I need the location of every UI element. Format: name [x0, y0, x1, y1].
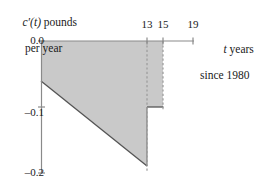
y-axis-label-line1: c′(t) pounds: [23, 16, 78, 28]
y-tick-label-0: 0.0: [18, 34, 44, 46]
x-axis-label-line1: t years: [224, 43, 254, 55]
shaded-region-13-to-15: [147, 41, 163, 107]
y-tick-label-neg0.2: –0.2: [8, 166, 44, 178]
chart-figure: c′(t) pounds per year t years since 1980…: [0, 0, 270, 188]
x-tick-label-15: 15: [154, 18, 172, 30]
y-tick-label-neg0.1: –0.1: [8, 106, 44, 118]
x-axis-label-line2: since 1980: [200, 69, 254, 82]
x-axis-label: t years since 1980: [212, 30, 254, 107]
x-tick-label-19: 19: [184, 18, 202, 30]
